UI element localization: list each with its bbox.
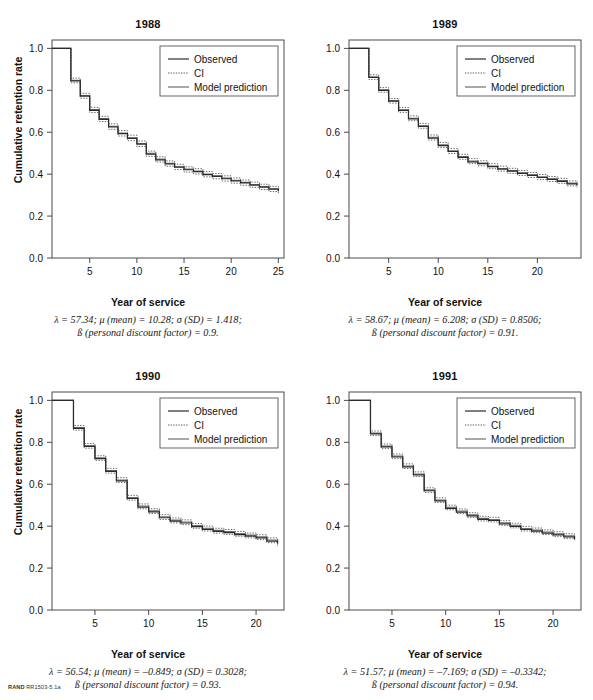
y-tick-label: 1.0	[326, 395, 340, 406]
plot-svg: 0.00.20.40.60.81.05101520ObservedCIModel…	[0, 384, 296, 646]
y-tick-label: 0.0	[29, 253, 43, 264]
x-tick-label: 15	[494, 618, 506, 629]
legend-item-ci-label: CI	[491, 68, 501, 79]
y-tick-label: 0.0	[326, 605, 340, 616]
x-tick-label: 10	[440, 618, 452, 629]
x-tick-label: 20	[532, 266, 544, 277]
panel-1990: 1990 0.00.20.40.60.81.05101520ObservedCI…	[0, 358, 296, 700]
y-tick-label: 0.4	[326, 169, 340, 180]
x-tick-label: 20	[226, 266, 238, 277]
x-tick-label: 5	[92, 618, 98, 629]
y-tick-label: 0.6	[29, 127, 43, 138]
y-tick-label: 0.4	[29, 169, 43, 180]
caption-line-1: λ = 57.34; μ (mean) = 10.28; σ (SD) = 1.…	[0, 314, 296, 327]
x-tick-label: 10	[131, 266, 143, 277]
legend-item-observed-label: Observed	[491, 54, 534, 65]
x-tick-label: 20	[548, 618, 560, 629]
y-tick-label: 0.0	[326, 253, 340, 264]
x-axis-label: Year of service	[297, 648, 593, 660]
source-credit: RAND RR1503-5.1a	[8, 684, 61, 690]
x-axis-label: Year of service	[0, 296, 296, 308]
caption-line-2: ß (personal discount factor) = 0.94.	[297, 679, 593, 692]
legend-item-observed-label: Observed	[194, 406, 237, 417]
y-tick-label: 0.4	[326, 521, 340, 532]
legend-item-model-prediction-label: Model prediction	[491, 434, 564, 445]
legend-item-observed-label: Observed	[491, 406, 534, 417]
figure-retention-panels: 1988 0.00.20.40.60.81.0510152025Observed…	[0, 0, 593, 700]
legend-item-model-prediction-label: Model prediction	[491, 82, 564, 93]
y-tick-label: 0.2	[326, 563, 340, 574]
y-tick-label: 0.6	[326, 479, 340, 490]
y-tick-label: 1.0	[29, 43, 43, 54]
y-tick-label: 0.0	[29, 605, 43, 616]
panel-caption: λ = 51.57; μ (mean) = –7.169; σ (SD) = –…	[297, 666, 593, 691]
caption-line-1: λ = 51.57; μ (mean) = –7.169; σ (SD) = –…	[297, 666, 593, 679]
panel-1991: 1991 0.00.20.40.60.81.05101520ObservedCI…	[297, 358, 593, 700]
y-tick-label: 1.0	[326, 43, 340, 54]
panel-title: 1988	[0, 18, 296, 30]
legend-item-ci-label: CI	[194, 420, 204, 431]
panel-caption: λ = 57.34; μ (mean) = 10.28; σ (SD) = 1.…	[0, 314, 296, 339]
plot-area: 0.00.20.40.60.81.05101520ObservedCIModel…	[0, 384, 296, 646]
x-tick-label: 5	[386, 266, 392, 277]
panel-caption: λ = 58.67; μ (mean) = 6.208; σ (SD) = 0.…	[297, 314, 593, 339]
source-credit-brand: RAND	[8, 684, 25, 690]
panel-1988: 1988 0.00.20.40.60.81.0510152025Observed…	[0, 6, 296, 354]
y-tick-label: 0.8	[29, 437, 43, 448]
legend-item-observed-label: Observed	[194, 54, 237, 65]
plot-area: 0.00.20.40.60.81.05101520ObservedCIModel…	[297, 384, 593, 646]
x-tick-label: 15	[482, 266, 494, 277]
plot-svg: 0.00.20.40.60.81.05101520ObservedCIModel…	[297, 384, 593, 646]
x-tick-label: 10	[433, 266, 445, 277]
x-tick-label: 15	[178, 266, 190, 277]
plot-area: 0.00.20.40.60.81.0510152025ObservedCIMod…	[0, 32, 296, 294]
y-tick-label: 0.4	[29, 521, 43, 532]
y-tick-label: 0.6	[29, 479, 43, 490]
x-axis-label: Year of service	[297, 296, 593, 308]
caption-line-1: λ = 58.67; μ (mean) = 6.208; σ (SD) = 0.…	[297, 314, 593, 327]
caption-line-2: ß (personal discount factor) = 0.91.	[297, 327, 593, 340]
caption-line-1: λ = 56.54; μ (mean) = –0.849; σ (SD) = 0…	[0, 666, 296, 679]
legend-item-model-prediction-label: Model prediction	[194, 434, 267, 445]
y-tick-label: 0.8	[326, 437, 340, 448]
legend-item-ci-label: CI	[194, 68, 204, 79]
x-tick-label: 20	[251, 618, 263, 629]
plot-svg: 0.00.20.40.60.81.05101520ObservedCIModel…	[297, 32, 593, 294]
x-tick-label: 25	[273, 266, 285, 277]
y-tick-label: 0.2	[29, 211, 43, 222]
legend-item-ci-label: CI	[491, 420, 501, 431]
y-tick-label: 0.8	[29, 85, 43, 96]
y-tick-label: 0.6	[326, 127, 340, 138]
y-tick-label: 0.2	[29, 563, 43, 574]
x-tick-label: 10	[143, 618, 155, 629]
plot-svg: 0.00.20.40.60.81.0510152025ObservedCIMod…	[0, 32, 296, 294]
plot-area: 0.00.20.40.60.81.05101520ObservedCIModel…	[297, 32, 593, 294]
x-tick-label: 15	[197, 618, 209, 629]
y-axis-label: Cumulative retention rate	[12, 382, 24, 562]
legend-item-model-prediction-label: Model prediction	[194, 82, 267, 93]
panel-title: 1989	[297, 18, 593, 30]
y-axis-label: Cumulative retention rate	[12, 30, 24, 210]
source-credit-id: RR1503-5.1a	[26, 684, 60, 690]
panel-title: 1990	[0, 370, 296, 382]
y-tick-label: 0.8	[326, 85, 340, 96]
x-axis-label: Year of service	[0, 648, 296, 660]
x-tick-label: 5	[87, 266, 93, 277]
y-tick-label: 0.2	[326, 211, 340, 222]
x-tick-label: 5	[389, 618, 395, 629]
y-tick-label: 1.0	[29, 395, 43, 406]
panel-title: 1991	[297, 370, 593, 382]
panel-1989: 1989 0.00.20.40.60.81.05101520ObservedCI…	[297, 6, 593, 354]
caption-line-2: ß (personal discount factor) = 0.9.	[0, 327, 296, 340]
